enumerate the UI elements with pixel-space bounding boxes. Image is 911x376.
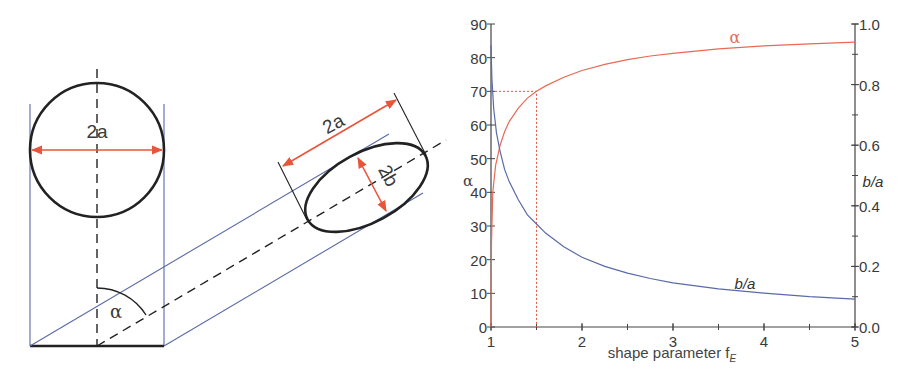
right-y-tick-label: 0.2 [859, 258, 880, 275]
right-y-tick-label: 0.6 [859, 137, 880, 154]
x-tick-label: 4 [760, 333, 768, 350]
left-y-tick-label: 10 [470, 285, 487, 302]
left-y-tick-label: 60 [470, 117, 487, 134]
chart: 0102030405060708090 0.00.20.40.60.81.0 1… [463, 16, 884, 364]
left-y-tick-label: 90 [470, 16, 487, 33]
x-tick-label: 1 [487, 333, 495, 350]
left-y-tick-label: 80 [470, 50, 487, 67]
alpha-curve [491, 42, 855, 327]
projection-diagram: 2a α 2a 2b [30, 69, 446, 346]
left-y-tick-label: 50 [470, 151, 487, 168]
right-y-tick-label: 0.4 [859, 198, 880, 215]
right-y-tick-label: 1.0 [859, 16, 880, 33]
right-y-tick-label: 0.0 [859, 319, 880, 336]
alpha-curve-label: α [730, 28, 741, 47]
left-y-tick-label: 20 [470, 252, 487, 269]
x-axis-label: shape parameter fE [608, 344, 737, 364]
ellipse-major-axis-arrow [283, 100, 396, 166]
left-y-tick-label: 30 [470, 218, 487, 235]
angle-label: α [110, 301, 122, 322]
left-y-tick-label: 0 [479, 319, 487, 336]
guide-line-70deg [491, 91, 537, 327]
circle-diameter-label: 2a [86, 121, 108, 142]
ellipse-major-axis-label: 2a [319, 109, 348, 138]
left-y-tick-label: 70 [470, 83, 487, 100]
ratio-curve-label: b/a [735, 275, 756, 292]
figure: 2a α 2a 2b 0102030405060708090 0.00.20.4… [0, 0, 911, 376]
right-y-tick-label: 0.8 [859, 77, 880, 94]
lower-inclined-projection-line [164, 193, 423, 346]
x-tick-label: 5 [851, 333, 859, 350]
ellipse-minor-axis-label: 2b [374, 161, 403, 190]
major-axis-extension-left [278, 162, 307, 220]
right-y-axis-label: b/a [863, 173, 884, 190]
ratio-curve [491, 45, 855, 299]
left-y-axis-label: α [463, 172, 473, 190]
ellipse-cross-section [291, 125, 442, 251]
x-tick-label: 2 [578, 333, 586, 350]
